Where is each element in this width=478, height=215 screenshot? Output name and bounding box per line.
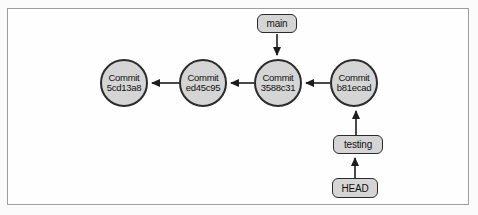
commit-hash: b81ecad [337,83,371,94]
branch-label-testing: testing [333,135,383,154]
diagram-frame [7,8,469,205]
figure-canvas: Commit 5cd13a8 Commit ed45c95 Commit 358… [0,0,478,215]
branch-label-testing-text: testing [344,139,372,150]
branch-label-main-text: main [267,18,288,29]
head-pointer-label-text: HEAD [342,183,369,194]
head-pointer-label: HEAD [332,178,378,198]
commit-hash: 5cd13a8 [107,83,141,94]
branch-label-main: main [257,14,297,33]
commit-hash: ed45c95 [186,83,220,94]
commit-node-3588c31: Commit 3588c31 [254,59,302,107]
commit-node-b81ecad: Commit b81ecad [330,59,378,107]
commit-node-ed45c95: Commit ed45c95 [179,59,227,107]
commit-hash: 3588c31 [261,83,295,94]
commit-node-5cd13a8: Commit 5cd13a8 [100,59,148,107]
